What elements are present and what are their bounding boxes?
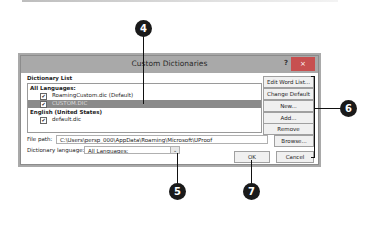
group-all-languages: All Languages: <box>30 85 76 91</box>
dictionary-language-label: Dictionary language: <box>27 147 84 153</box>
checkbox-roamingcustom[interactable]: ✔ <box>40 93 47 100</box>
callout-5: 5 <box>169 183 186 200</box>
help-button[interactable]: ? <box>284 59 288 67</box>
callout-7: 7 <box>243 183 260 200</box>
callout-4: 4 <box>135 20 152 37</box>
close-button[interactable]: × <box>291 57 315 71</box>
callout-7-line <box>251 160 252 185</box>
browse-button[interactable]: Browse... <box>274 135 314 147</box>
edit-word-list-button[interactable]: Edit Word List... <box>263 76 314 88</box>
cancel-button[interactable]: Cancel <box>276 151 314 163</box>
list-item-roamingcustom[interactable]: ✔ RoamingCustom.dic (Default) <box>28 92 261 100</box>
dictionary-listbox[interactable]: All Languages: ✔ RoamingCustom.dic (Defa… <box>27 83 262 133</box>
remove-button[interactable]: Remove <box>263 123 314 135</box>
group-english-us: English (United States) <box>30 109 102 115</box>
new-button[interactable]: New... <box>263 100 314 112</box>
dictionary-language-value: All Languages: <box>88 148 128 154</box>
list-item-label: CUSTOM.DIC <box>52 100 87 106</box>
file-path-label: File path: <box>27 136 52 142</box>
checkbox-default-dic[interactable]: ✔ <box>40 117 47 124</box>
custom-dictionaries-dialog: Custom Dictionaries ? × Dictionary List … <box>20 55 319 165</box>
title-bar: Custom Dictionaries ? × <box>21 56 318 73</box>
ok-button[interactable]: OK <box>234 151 270 163</box>
list-item-custom-dic[interactable]: ✔ CUSTOM.DIC <box>28 100 261 108</box>
list-item-label: default.dic <box>52 116 81 122</box>
change-default-button[interactable]: Change Default <box>263 88 314 100</box>
callout-6-line <box>315 108 341 109</box>
dialog-title: Custom Dictionaries <box>21 59 318 68</box>
callout-6: 6 <box>340 100 357 117</box>
dictionary-language-select[interactable]: All Languages: ⌄ <box>84 146 180 154</box>
callout-4-line <box>143 36 144 104</box>
callout-5-line <box>177 153 178 185</box>
file-path-field[interactable]: C:\Users\persp_000\AppData\Roaming\Micro… <box>56 135 268 144</box>
checkbox-custom-dic[interactable]: ✔ <box>40 101 47 108</box>
page-top-strip <box>22 0 338 2</box>
callout-6-bracket <box>311 76 315 158</box>
list-item-default-dic[interactable]: ✔ default.dic <box>28 116 261 124</box>
list-item-label: RoamingCustom.dic (Default) <box>52 92 133 98</box>
dictionary-list-label: Dictionary List <box>27 75 72 81</box>
